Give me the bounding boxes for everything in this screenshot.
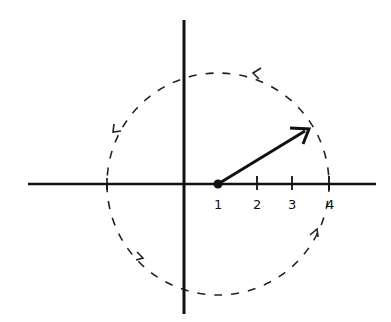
tick-label-4: 4 (326, 197, 334, 212)
tick-label-1: 1 (214, 197, 222, 212)
circle-arrow-bottom-left-icon (136, 252, 143, 260)
diagram-canvas: 1 2 3 4 (0, 0, 391, 322)
point-one (214, 180, 223, 189)
circle-arrow-left-icon (113, 124, 121, 132)
circle-arrow-top-icon (253, 68, 261, 79)
tick-label-2: 2 (253, 197, 261, 212)
tick-label-3: 3 (288, 197, 296, 212)
